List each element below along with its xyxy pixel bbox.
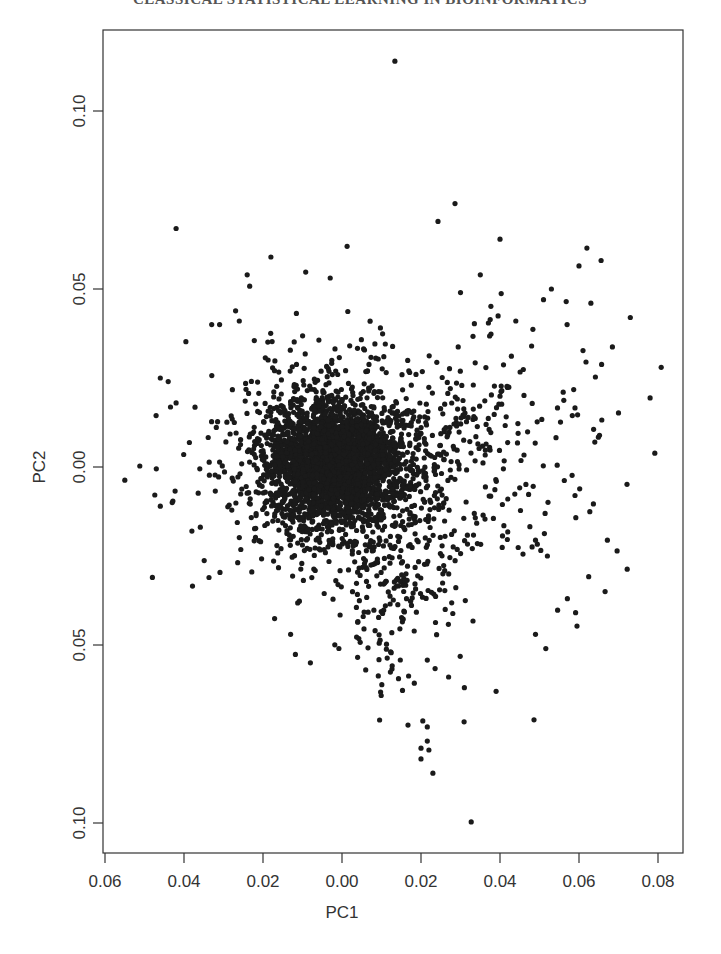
data-point <box>366 497 371 502</box>
data-point <box>352 559 357 564</box>
data-point <box>233 308 238 313</box>
data-point <box>449 459 454 464</box>
data-point <box>287 447 292 452</box>
data-point <box>381 354 386 359</box>
data-point <box>183 339 188 344</box>
data-point <box>360 442 365 447</box>
x-tick-label: 0.06 <box>88 872 121 891</box>
data-point <box>290 520 295 525</box>
data-point <box>438 535 443 540</box>
data-point <box>370 562 375 567</box>
data-point <box>308 660 313 665</box>
data-point <box>341 485 346 490</box>
data-point <box>449 400 454 405</box>
data-point <box>274 543 279 548</box>
data-point <box>483 484 488 489</box>
data-point <box>433 666 438 671</box>
data-point <box>291 410 296 415</box>
data-point <box>299 515 304 520</box>
data-point <box>388 430 393 435</box>
data-point <box>306 487 311 492</box>
data-point <box>358 410 363 415</box>
data-point <box>217 322 222 327</box>
data-point <box>246 447 251 452</box>
data-point <box>249 379 254 384</box>
data-point <box>455 407 460 412</box>
data-point <box>390 491 395 496</box>
data-point <box>573 515 578 520</box>
data-point <box>378 689 383 694</box>
data-point <box>400 412 405 417</box>
data-point <box>395 602 400 607</box>
data-point <box>477 404 482 409</box>
data-point <box>525 429 530 434</box>
data-point <box>553 435 558 440</box>
data-point <box>372 341 377 346</box>
data-point <box>387 453 392 458</box>
data-point <box>248 496 253 501</box>
data-point <box>300 333 305 338</box>
data-point <box>433 490 438 495</box>
data-point <box>424 422 429 427</box>
data-point <box>472 511 477 516</box>
data-point <box>288 422 293 427</box>
data-point <box>392 59 397 64</box>
data-point <box>373 448 378 453</box>
data-point <box>352 447 357 452</box>
data-point <box>311 425 316 430</box>
data-point <box>448 467 453 472</box>
data-point <box>545 553 550 558</box>
data-point <box>523 482 528 487</box>
data-point <box>447 366 452 371</box>
data-point <box>561 390 566 395</box>
data-point <box>377 641 382 646</box>
data-point <box>279 482 284 487</box>
data-point <box>414 610 419 615</box>
data-point <box>555 463 560 468</box>
data-point <box>374 559 379 564</box>
data-point <box>263 401 268 406</box>
data-point <box>452 528 457 533</box>
data-point <box>318 424 323 429</box>
data-point <box>329 487 334 492</box>
data-point <box>346 510 351 515</box>
data-point <box>266 357 271 362</box>
data-point <box>458 654 463 659</box>
data-point <box>366 514 371 519</box>
data-point <box>533 632 538 637</box>
data-point <box>516 431 521 436</box>
data-point <box>275 445 280 450</box>
data-point <box>228 431 233 436</box>
data-point <box>335 372 340 377</box>
data-point <box>189 529 194 534</box>
data-point <box>450 611 455 616</box>
data-point <box>352 407 357 412</box>
data-point <box>237 535 242 540</box>
data-point <box>362 381 367 386</box>
data-point <box>339 518 344 523</box>
data-point <box>364 579 369 584</box>
data-point <box>329 529 334 534</box>
data-point <box>319 369 324 374</box>
data-point <box>263 472 268 477</box>
y-tick-label: 0.05 <box>70 628 89 661</box>
data-point <box>287 537 292 542</box>
data-point <box>435 219 440 224</box>
data-point <box>376 673 381 678</box>
data-point <box>310 506 315 511</box>
data-point <box>278 505 283 510</box>
data-point <box>517 485 522 490</box>
data-point <box>374 419 379 424</box>
data-point <box>407 494 412 499</box>
data-point <box>237 318 242 323</box>
data-point <box>302 548 307 553</box>
data-point <box>245 272 250 277</box>
data-point <box>332 642 337 647</box>
data-point <box>440 375 445 380</box>
data-point <box>500 545 505 550</box>
data-point <box>373 515 378 520</box>
data-point <box>383 467 388 472</box>
data-point <box>438 443 443 448</box>
data-point <box>319 503 324 508</box>
data-point <box>376 389 381 394</box>
